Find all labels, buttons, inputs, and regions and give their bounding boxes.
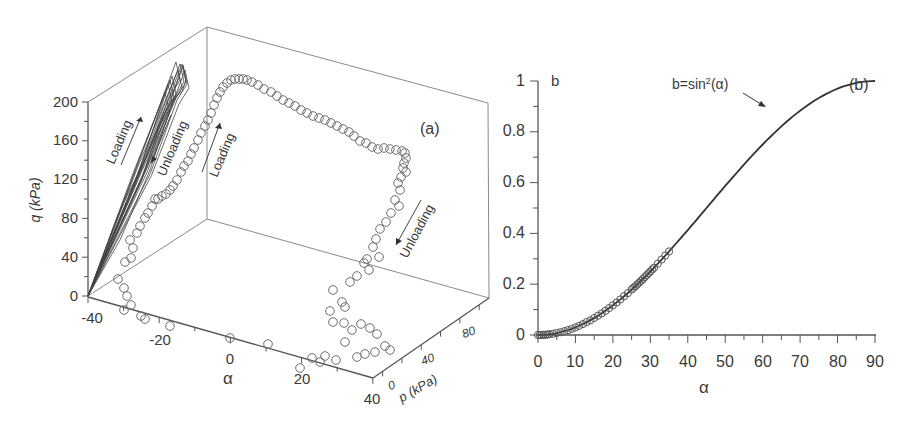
b-x-tick-label: 90 <box>866 353 884 370</box>
q-tick-label: 0 <box>70 287 78 304</box>
data-point <box>120 284 129 293</box>
b-x-tick-label: 70 <box>791 353 809 370</box>
data-point <box>173 176 182 185</box>
data-point <box>123 292 132 301</box>
svg-text:Loading: Loading <box>103 118 135 166</box>
b-y-tick-label: 0.2 <box>503 275 525 292</box>
annotation-loading-1: Loading <box>103 117 143 166</box>
data-point <box>369 243 378 252</box>
data-point <box>273 92 282 101</box>
alpha-axis-title: α <box>223 369 233 388</box>
alpha-tick-label: -20 <box>149 331 171 348</box>
b-y-tick-label: 0.6 <box>503 173 525 190</box>
data-point <box>332 356 341 365</box>
q-axis-title: q (kPa) <box>27 177 43 222</box>
data-point <box>365 266 374 275</box>
b-x-tick-label: 0 <box>534 353 543 370</box>
data-point <box>382 218 391 227</box>
data-point <box>207 109 216 118</box>
data-point <box>315 114 324 123</box>
data-point <box>380 144 389 153</box>
data-point <box>362 139 371 148</box>
data-point <box>361 350 370 359</box>
data-point <box>387 209 396 218</box>
data-point <box>402 154 411 163</box>
b-x-tick-label: 60 <box>754 353 772 370</box>
b-x-axis-title: α <box>699 378 709 397</box>
panel-label-a: (a) <box>420 120 440 137</box>
data-point <box>376 225 385 234</box>
data-point <box>127 301 136 310</box>
data-point <box>348 326 357 335</box>
arrow-icon <box>758 101 766 107</box>
b-x-tick-label: 40 <box>679 353 697 370</box>
alpha-tick-label: -40 <box>81 309 103 326</box>
data-point <box>129 244 138 253</box>
data-point <box>353 353 362 362</box>
q-tick-label: 120 <box>53 170 78 187</box>
p-tick-label: 80 <box>460 323 478 341</box>
data-point <box>341 338 350 347</box>
b-x-tick-label: 50 <box>716 353 734 370</box>
data-point <box>264 340 273 349</box>
data-point <box>340 319 349 328</box>
data-point <box>395 202 404 211</box>
data-point <box>373 330 382 339</box>
data-point <box>391 196 400 205</box>
q-tick-label: 160 <box>53 131 78 148</box>
b-y-tick-label: 1 <box>516 72 525 89</box>
q-tick-label: 80 <box>61 209 78 226</box>
panel-label-b: (b) <box>849 76 869 93</box>
b-x-tick-label: 80 <box>829 353 847 370</box>
data-point <box>356 137 365 146</box>
b-y-axis-title: b <box>551 72 559 89</box>
data-point <box>326 307 335 316</box>
data-point <box>386 145 395 154</box>
sin2-curve <box>538 81 875 335</box>
data-point <box>346 278 355 287</box>
svg-text:Loading: Loading <box>206 131 238 179</box>
alpha-tick-label: 0 <box>226 350 234 367</box>
data-point <box>368 143 377 152</box>
measured-points-b <box>534 248 672 339</box>
data-point <box>374 145 383 154</box>
data-point <box>353 272 362 281</box>
data-point <box>392 146 401 155</box>
data-point <box>127 254 136 263</box>
p-tick-label: 40 <box>419 350 437 368</box>
data-point <box>338 298 347 307</box>
q-tick-label: 200 <box>53 93 78 110</box>
data-point <box>321 352 330 361</box>
data-point <box>267 88 276 97</box>
p-tick-label: 0 <box>386 377 397 393</box>
data-point <box>371 348 380 357</box>
b-y-tick-label: 0.4 <box>503 224 525 241</box>
figure: 0 40 80 120 160 200 q (kPa) -40 -20 0 20… <box>0 0 905 423</box>
q-tick-label: 40 <box>61 248 78 265</box>
measured-points-a <box>114 75 411 373</box>
data-point <box>141 214 150 223</box>
b-x-tick-label: 30 <box>641 353 659 370</box>
data-point <box>121 258 130 267</box>
p-axis-title: p (kPa) <box>395 371 440 405</box>
b-x-tick-label: 20 <box>604 353 622 370</box>
q-axis: 0 40 80 120 160 200 q (kPa) <box>27 93 88 304</box>
data-point <box>341 303 350 312</box>
panel-a-3d-plot: 0 40 80 120 160 200 q (kPa) -40 -20 0 20… <box>27 27 489 407</box>
data-point <box>366 324 375 333</box>
data-point <box>166 322 175 331</box>
data-point <box>329 318 338 327</box>
data-point <box>126 236 135 245</box>
alpha-tick-label: 40 <box>364 390 381 407</box>
b-y-tick-label: 0.8 <box>503 122 525 139</box>
panel-b-2d-plot: 0 0.2 0.4 0.6 0.8 1 0 10 20 30 40 50 60 … <box>503 72 884 397</box>
stress-path-bundle <box>88 62 189 296</box>
data-point <box>329 286 338 295</box>
curve-annotation: b=sin2(α) <box>672 76 766 107</box>
b-y-tick-label: 0 <box>516 326 525 343</box>
data-point <box>357 320 366 329</box>
p-axis: 0 40 80 p (kPa) <box>373 298 489 406</box>
svg-text:Unloading: Unloading <box>396 202 437 261</box>
b-x-tick-label: 10 <box>566 353 584 370</box>
svg-text:b=sin2(α): b=sin2(α) <box>672 76 728 92</box>
